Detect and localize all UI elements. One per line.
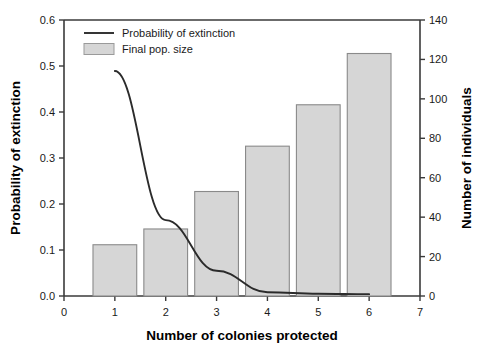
x-axis-tick-label: 1: [112, 306, 118, 318]
y-axis-right-tick-label: 40: [429, 211, 441, 223]
y-axis-left-tick-label: 0.5: [40, 60, 55, 72]
y-axis-left-tick-label: 0.3: [40, 152, 55, 164]
y-axis-right-tick-label: 120: [429, 53, 447, 65]
y-axis-right-tick-label: 80: [429, 132, 441, 144]
bar: [195, 192, 239, 296]
y-axis-left-tick-label: 0.1: [40, 244, 55, 256]
x-axis-tick-label: 0: [61, 306, 67, 318]
bar: [144, 229, 188, 296]
legend-swatch-marker: [84, 44, 114, 55]
y-axis-left-tick-label: 0.2: [40, 198, 55, 210]
bar: [347, 54, 391, 296]
y-axis-left-title: Probability of extinction: [8, 81, 23, 235]
chart-container: 0.00.10.20.30.40.50.60204060801001201400…: [0, 0, 491, 353]
extinction-probability-chart: 0.00.10.20.30.40.50.60204060801001201400…: [0, 0, 491, 353]
y-axis-right-title: Number of individuals: [459, 87, 474, 229]
legend-item-label: Probability of extinction: [122, 27, 235, 39]
y-axis-left-tick-label: 0.0: [40, 290, 55, 302]
y-axis-right-tick-label: 60: [429, 172, 441, 184]
legend-item-label: Final pop. size: [122, 43, 193, 55]
bar: [296, 105, 340, 296]
y-axis-right-tick-label: 0: [429, 290, 435, 302]
bar: [246, 146, 290, 296]
x-axis-title: Number of colonies protected: [146, 328, 337, 343]
y-axis-left-tick-label: 0.4: [40, 106, 55, 118]
x-axis-tick-label: 2: [163, 306, 169, 318]
bar: [93, 245, 137, 296]
y-axis-right-tick-label: 100: [429, 93, 447, 105]
y-axis-right-tick-label: 20: [429, 251, 441, 263]
x-axis-tick-label: 7: [417, 306, 423, 318]
x-axis-tick-label: 4: [264, 306, 270, 318]
y-axis-left-tick-label: 0.6: [40, 14, 55, 26]
x-axis-tick-label: 6: [366, 306, 372, 318]
y-axis-right-tick-label: 140: [429, 14, 447, 26]
x-axis-tick-label: 3: [214, 306, 220, 318]
x-axis-tick-label: 5: [315, 306, 321, 318]
